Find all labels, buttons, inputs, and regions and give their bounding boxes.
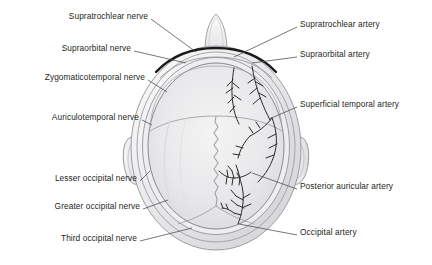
- label-supraorbital-nerve: Supraorbital nerve: [0, 43, 131, 53]
- label-greater-occipital-nerve: Greater occipital nerve: [0, 201, 140, 211]
- leader-supratrochlear-nerve: [151, 19, 196, 52]
- label-lesser-occipital-nerve: Lesser occipital nerve: [0, 173, 137, 183]
- leader-supratrochlear-artery: [234, 27, 297, 57]
- head-illustration: [123, 14, 308, 250]
- label-supratrochlear-nerve: Supratrochlear nerve: [0, 11, 148, 21]
- label-supratrochlear-artery: Supratrochlear artery: [300, 19, 380, 29]
- scalp-anatomy-illustration: [0, 0, 432, 265]
- label-supraorbital-artery: Supraorbital artery: [300, 49, 370, 59]
- label-zygomaticotemporal-nerve: Zygomaticotemporal nerve: [0, 72, 145, 82]
- label-occipital-artery: Occipital artery: [300, 227, 357, 237]
- label-auriculotemporal-nerve: Auriculotemporal nerve: [0, 112, 139, 122]
- label-superficial-temporal-artery: Superficial temporal artery: [300, 99, 399, 109]
- label-posterior-auricular-artery: Posterior auricular artery: [300, 181, 393, 191]
- label-third-occipital-nerve: Third occipital nerve: [0, 233, 137, 243]
